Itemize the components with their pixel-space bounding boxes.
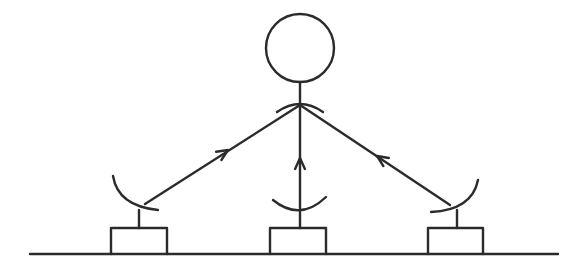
signal-link-left [145, 105, 300, 204]
satellite-relay-diagram [0, 0, 586, 271]
station-building [270, 228, 326, 254]
signal-link-right [300, 105, 450, 205]
station-building [111, 228, 167, 254]
ground-station-left [111, 176, 167, 254]
signal-links [145, 105, 450, 208]
ground-station-right [428, 180, 483, 254]
station-dish-icon [113, 176, 158, 210]
ground-station-center [270, 197, 326, 254]
station-building [428, 228, 483, 254]
satellite [266, 14, 334, 112]
ground-stations [111, 176, 483, 254]
satellite-body-icon [266, 14, 334, 82]
